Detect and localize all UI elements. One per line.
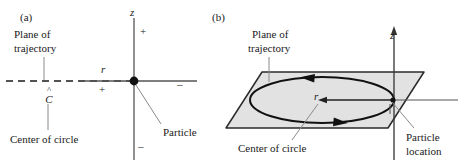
axis-r-negative-sign-a: – bbox=[177, 78, 183, 90]
particle-dot-b bbox=[390, 97, 395, 102]
particle-dot-a bbox=[130, 77, 139, 86]
leader-particle-a bbox=[136, 85, 161, 124]
label-center-of-circle-a: Center of circle bbox=[10, 133, 78, 145]
label-center-of-circle-b: Center of circle bbox=[238, 142, 306, 154]
label-particle-a: Particle bbox=[163, 126, 197, 138]
axis-label-z-b: z bbox=[390, 29, 394, 41]
label-plane-of-trajectory-b-line1: Plane of bbox=[252, 28, 288, 40]
axis-label-z-a: z bbox=[130, 6, 134, 18]
label-plane-of-trajectory-b-line2: trajectory bbox=[248, 42, 290, 54]
label-plane-of-trajectory-a-line2: trajectory bbox=[14, 42, 56, 54]
axis-label-r-a: r bbox=[101, 63, 105, 75]
axis-label-r-b: r bbox=[314, 90, 318, 102]
label-plane-of-trajectory-a-line1: Plane of bbox=[14, 28, 50, 40]
axis-z-negative-sign-a: – bbox=[138, 140, 144, 152]
panel-tag-b: (b) bbox=[212, 11, 225, 23]
panel-tag-a: (a) bbox=[20, 11, 32, 23]
label-center-symbol-a-group: ^ C bbox=[41, 88, 57, 105]
physics-figure-circular-trajectory: (a) Plane of trajectory ^ C Center of ci… bbox=[0, 0, 464, 168]
label-particle-location-b-line1: Particle bbox=[406, 131, 440, 143]
axis-z-positive-sign-a: + bbox=[140, 25, 146, 37]
label-center-symbol-a: C bbox=[41, 93, 57, 105]
axis-r-positive-sign-a: + bbox=[99, 83, 105, 95]
label-particle-location-b-line2: location bbox=[406, 145, 441, 157]
